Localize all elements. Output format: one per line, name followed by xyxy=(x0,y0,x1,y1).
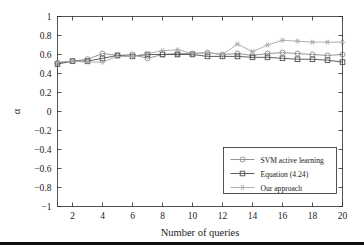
x-tick-label: 20 xyxy=(338,211,348,221)
series-2 xyxy=(55,52,345,66)
legend-label: SVM active learning xyxy=(261,156,324,165)
data-point xyxy=(310,40,316,45)
chart-canvas: 2468101214161820−1−0.8−0.6−0.4−0.200.20.… xyxy=(0,0,364,249)
data-point xyxy=(325,40,331,45)
legend-label: Equation (4.24) xyxy=(261,170,309,179)
legend: SVM active learningEquation (4.24)Our ap… xyxy=(224,148,337,194)
y-tick-label: 0.4 xyxy=(40,69,52,79)
data-point xyxy=(295,39,301,44)
marker-star xyxy=(325,40,331,45)
y-tick-label: 0 xyxy=(47,107,52,117)
x-tick-label: 18 xyxy=(308,211,318,221)
y-tick-label: −0.6 xyxy=(34,164,51,174)
x-axis-title: Number of queries xyxy=(161,227,240,238)
y-tick-label: −0.4 xyxy=(34,145,51,155)
x-tick-label: 6 xyxy=(130,211,135,221)
x-tick-label: 4 xyxy=(100,211,105,221)
y-tick-label: 0.2 xyxy=(40,88,52,98)
x-tick-label: 14 xyxy=(248,211,258,221)
x-tick-label: 10 xyxy=(188,211,198,221)
marker-star xyxy=(280,38,286,43)
y-tick-label: −0.8 xyxy=(34,183,51,193)
page-bottom-rule xyxy=(0,242,364,245)
series-3 xyxy=(55,38,346,65)
series-1 xyxy=(55,50,345,65)
y-tick-label: 1 xyxy=(47,12,52,22)
x-tick-label: 16 xyxy=(278,211,288,221)
data-point xyxy=(265,42,271,47)
y-tick-label: 0.6 xyxy=(40,50,52,60)
y-axis-title: α xyxy=(11,108,22,114)
x-tick-label: 8 xyxy=(160,211,165,221)
x-tick-label: 2 xyxy=(70,211,75,221)
marker-star xyxy=(310,40,316,45)
marker-star xyxy=(265,42,271,47)
y-tick-label: 0.8 xyxy=(40,31,52,41)
y-tick-label: −1 xyxy=(41,202,51,212)
data-point xyxy=(280,38,286,43)
y-tick-label: −0.2 xyxy=(34,126,51,136)
marker-star xyxy=(295,39,301,44)
figure-container: 2468101214161820−1−0.8−0.6−0.4−0.200.20.… xyxy=(0,0,364,249)
x-tick-label: 12 xyxy=(218,211,228,221)
legend-label: Our approach xyxy=(261,184,303,193)
